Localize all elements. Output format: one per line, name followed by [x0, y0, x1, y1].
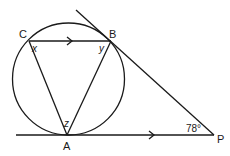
label-c: C — [19, 28, 27, 40]
label-a: A — [63, 140, 71, 152]
angle-y-label: y — [98, 43, 105, 54]
label-p: P — [217, 133, 224, 145]
chord-ca — [29, 41, 67, 135]
angle-z-label: z — [63, 118, 69, 129]
geometry-diagram: C B A P x y z 78° — [0, 0, 230, 156]
angle-x-label: x — [31, 43, 38, 54]
chord-ba — [67, 41, 111, 135]
label-b: B — [109, 28, 116, 40]
angle-p-label: 78° — [186, 123, 201, 134]
